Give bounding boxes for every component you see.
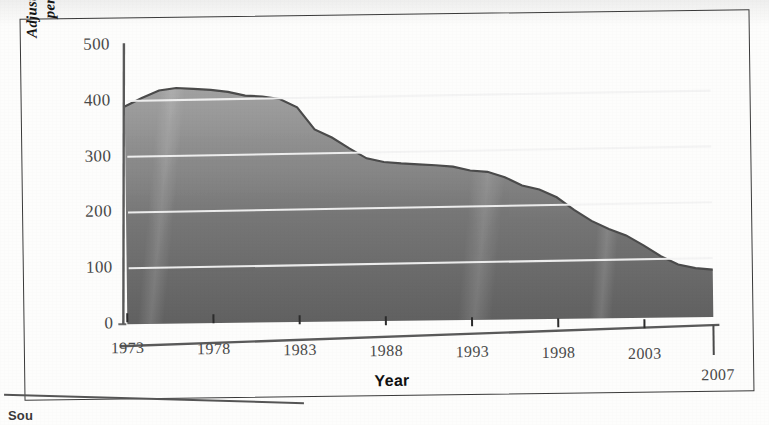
y-tick-label-400: 400: [66, 90, 110, 111]
scanned-page: 0 100 200 300 400 500 1973 1978 1983 198…: [0, 0, 769, 425]
x-tick-label-2007: 2007: [688, 366, 748, 385]
y-tick-label-200: 200: [68, 202, 112, 223]
chart-area: 0 100 200 300 400 500 1973 1978 1983 198…: [0, 0, 769, 425]
x-tick-label-2003: 2003: [615, 345, 675, 364]
x-tick-label-1973: 1973: [98, 339, 158, 358]
source-note: Sou: [8, 408, 33, 422]
x-tick-label-1988: 1988: [356, 342, 416, 361]
y-tick-label-100: 100: [69, 258, 113, 279]
chart-title: [230, 0, 590, 10]
y-tick-label-300: 300: [67, 146, 111, 167]
y-axis-title: Adjusted Victimization Rate per 1,000 Ho…: [22, 0, 60, 38]
y-axis-title-wrap: Adjusted Victimization Rate per 1,000 Ho…: [19, 0, 62, 64]
x-tick-label-1983: 1983: [270, 341, 330, 360]
y-tick-label-500: 500: [66, 34, 110, 55]
x-tick-label-1978: 1978: [184, 340, 244, 359]
x-tick-label-1993: 1993: [442, 343, 502, 362]
x-tick-label-1998: 1998: [529, 344, 589, 363]
x-axis-title: Year: [302, 371, 482, 391]
y-tick-label-0: 0: [69, 313, 113, 334]
